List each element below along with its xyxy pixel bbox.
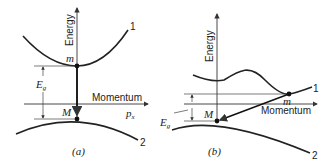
M-label-a: M — [61, 106, 72, 118]
energy-label-b: Energy — [204, 30, 215, 62]
band-1-label-b: 1 — [313, 83, 319, 94]
band-1-label-a: 1 — [130, 21, 136, 32]
band-2-label-b: 2 — [312, 150, 318, 161]
point-M-b — [215, 119, 220, 124]
m-label-a: m — [66, 52, 74, 64]
eg-leader-b — [174, 110, 188, 113]
M-label-b: M — [203, 108, 214, 120]
energy-label-a: Energy — [64, 14, 75, 46]
band-2-label-a: 2 — [140, 137, 146, 148]
panel-a: Energy Momentum px 1 2 Eg m M (a) — [16, 8, 148, 158]
m-label-b: m — [283, 95, 291, 107]
valence-band-b — [172, 125, 310, 153]
panel-b: Energy Momentum 1 2 Eg m M (b) — [159, 14, 319, 161]
caption-b: (b) — [208, 145, 221, 158]
point-m-a — [75, 64, 80, 69]
point-M-a — [75, 117, 80, 122]
px-label-a: px — [125, 107, 136, 121]
momentum-label-a: Momentum — [92, 92, 142, 103]
conduction-band-b — [193, 70, 312, 94]
band-diagram-figure: Energy Momentum px 1 2 Eg m M (a) Energy… — [0, 0, 328, 167]
valence-band-a — [16, 122, 138, 140]
eg-label-a: Eg — [35, 78, 47, 92]
conduction-band-a — [23, 30, 128, 66]
eg-label-b: Eg — [159, 116, 171, 130]
caption-a: (a) — [72, 145, 85, 158]
